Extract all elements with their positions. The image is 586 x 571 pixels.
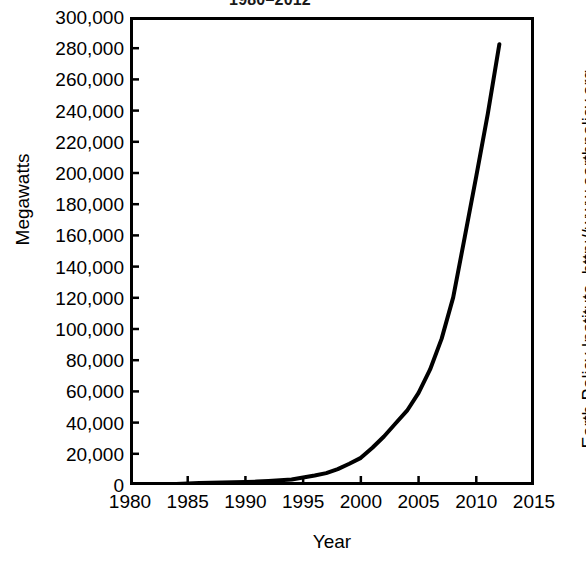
x-axis-tick-label: 1980 [100,492,160,511]
y-axis-tick-label: 220,000 [20,133,124,152]
y-axis-tick-label: 60,000 [20,382,124,401]
x-axis-title: Year [130,532,534,551]
y-axis-tick-label: 120,000 [20,289,124,308]
source-credit: Earth Policy Institute–http://www.earthp… [580,24,586,494]
y-axis-tick-label: 100,000 [20,320,124,339]
plot-canvas [130,17,534,485]
y-axis-tick-label: 300,000 [20,8,124,27]
y-axis-title: Megawatts [13,130,32,270]
y-axis-tick-label: 280,000 [20,39,124,58]
x-axis-tick-label: 1995 [273,492,333,511]
y-axis-tick-label: 240,000 [20,102,124,121]
y-axis-tick-label: 180,000 [20,195,124,214]
y-axis-tick-label: 160,000 [20,226,124,245]
y-axis-tick-label: 200,000 [20,164,124,183]
x-axis-tick-label: 2010 [446,492,506,511]
y-axis-tick-label: 140,000 [20,258,124,277]
y-axis-tick-label: 80,000 [20,351,124,370]
chart-container: 1980–2012 020,00040,00060,00080,000100,0… [0,0,586,571]
data-series-line [130,44,499,485]
x-axis-tick-label: 1990 [215,492,275,511]
x-axis-tick-label: 1985 [158,492,218,511]
y-axis-tick-label: 260,000 [20,70,124,89]
x-axis-tick-label: 2000 [331,492,391,511]
y-axis-tick-label: 40,000 [20,414,124,433]
x-axis-tick-label: 2015 [504,492,564,511]
x-axis-tick-label: 2005 [389,492,449,511]
y-axis-tick-label: 20,000 [20,445,124,464]
